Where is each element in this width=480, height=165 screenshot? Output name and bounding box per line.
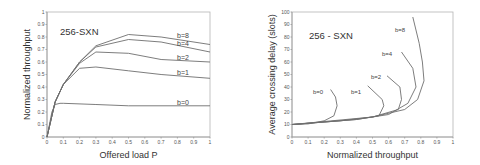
x-tick-label: 0 xyxy=(46,139,49,145)
x-tick-label: 0.2 xyxy=(321,139,328,145)
x-tick-label: 0.3 xyxy=(337,139,344,145)
series-label-b8: b=8 xyxy=(395,27,406,33)
right-chart: 00.10.20.30.40.50.60.70.80.91 0102030405… xyxy=(267,9,455,160)
y-tick-label: 0 xyxy=(287,134,290,140)
x-tick-label: 1 xyxy=(209,139,212,145)
series-label-b4: b=4 xyxy=(382,51,393,57)
y-tick-label: 40 xyxy=(284,84,290,90)
chart-title: 256 - SXN xyxy=(309,30,353,41)
series-label-b1: b=1 xyxy=(177,69,189,76)
y-ticks: 00.10.20.30.40.50.60.70.80.91 xyxy=(38,9,47,140)
y-tick-label: 100 xyxy=(281,9,290,15)
x-tick-label: 0.7 xyxy=(158,139,165,145)
x-tick-label: 0.1 xyxy=(60,139,67,145)
series-label-b2: b=2 xyxy=(177,54,189,61)
y-tick-label: 0.5 xyxy=(38,71,45,77)
y-tick-label: 0.1 xyxy=(38,121,45,127)
y-tick-label: 0.8 xyxy=(38,34,45,40)
y-tick-label: 80 xyxy=(284,34,290,40)
y-tick-label: 1 xyxy=(42,9,45,15)
x-axis-label: Normalized throughput xyxy=(327,150,419,160)
series-line-b2 xyxy=(47,52,210,137)
y-tick-label: 50 xyxy=(284,71,290,77)
x-tick-label: 0.4 xyxy=(353,139,360,145)
x-tick-label: 0.5 xyxy=(369,139,376,145)
x-axis-label: Offered load P xyxy=(100,150,158,160)
y-tick-label: 0.7 xyxy=(38,46,45,52)
x-tick-label: 0.8 xyxy=(174,139,181,145)
x-tick-label: 0.1 xyxy=(305,139,312,145)
x-tick-label: 1 xyxy=(452,139,455,145)
y-tick-label: 0.6 xyxy=(38,59,45,65)
series-line-b1 xyxy=(292,86,384,125)
y-tick-label: 0.4 xyxy=(38,84,45,90)
series-label-b0: b=0 xyxy=(313,89,324,95)
y-tick-label: 0.9 xyxy=(38,21,45,27)
series-label-b4: b=4 xyxy=(177,40,189,47)
y-axis-label: Average crossing delay (slots) xyxy=(267,14,277,134)
series-label-b0: b=0 xyxy=(177,99,189,106)
series-line-b0 xyxy=(47,103,210,137)
x-tick-label: 0.8 xyxy=(417,139,424,145)
y-tick-label: 10 xyxy=(284,121,290,127)
y-ticks: 0102030405060708090100 xyxy=(281,9,292,140)
series-label-b2: b=2 xyxy=(371,74,382,80)
x-tick-label: 0.5 xyxy=(125,139,132,145)
series-lines xyxy=(47,35,210,138)
x-ticks: 00.10.20.30.40.50.60.70.80.91 xyxy=(46,137,212,145)
y-tick-label: 60 xyxy=(284,59,290,65)
x-tick-label: 0.6 xyxy=(141,139,148,145)
y-axis-label: Normalized throughput xyxy=(22,28,32,120)
y-tick-label: 0.2 xyxy=(38,109,45,115)
series-line-b8 xyxy=(47,35,210,138)
x-ticks: 00.10.20.30.40.50.60.70.80.91 xyxy=(291,137,455,145)
x-tick-label: 0.3 xyxy=(92,139,99,145)
x-tick-label: 0.9 xyxy=(433,139,440,145)
series-line-b2 xyxy=(292,76,402,125)
y-tick-label: 0.3 xyxy=(38,96,45,102)
x-tick-label: 0.7 xyxy=(401,139,408,145)
chart-title: 256-SXN xyxy=(60,26,99,37)
x-tick-label: 0 xyxy=(291,139,294,145)
x-tick-label: 0.6 xyxy=(385,139,392,145)
series-label-b8: b=8 xyxy=(177,32,189,39)
y-tick-label: 20 xyxy=(284,109,290,115)
y-tick-label: 0 xyxy=(42,134,45,140)
series-label-b1: b=1 xyxy=(351,89,362,95)
y-tick-label: 70 xyxy=(284,46,290,52)
y-tick-label: 30 xyxy=(284,96,290,102)
x-tick-label: 0.9 xyxy=(190,139,197,145)
x-tick-label: 0.4 xyxy=(109,139,116,145)
x-tick-label: 0.2 xyxy=(76,139,83,145)
figure: 00.10.20.30.40.50.60.70.80.91 00.10.20.3… xyxy=(0,0,480,165)
left-chart: 00.10.20.30.40.50.60.70.80.91 00.10.20.3… xyxy=(22,9,212,160)
y-tick-label: 90 xyxy=(284,21,290,27)
